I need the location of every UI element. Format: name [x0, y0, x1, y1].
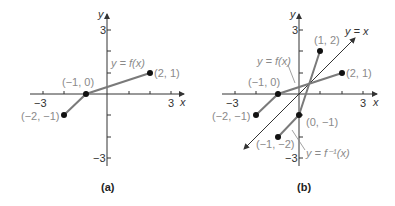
point-label-1-2: (1, 2) [314, 34, 340, 46]
curve-label-f-inverse: y = f⁻¹(x) [305, 147, 350, 159]
y-tick-neg3: −3 [285, 152, 298, 164]
point-label-neg2-neg1: (−2, −1) [212, 110, 251, 122]
point-neg2-neg1 [61, 112, 67, 118]
caption-b: (b) [297, 181, 311, 193]
x-tick-3: 3 [168, 97, 174, 109]
y-axis-label: y [289, 8, 297, 20]
point-label-2-1: (2, 1) [154, 67, 180, 79]
x-axis-label: x [372, 96, 379, 108]
x-tick-3: 3 [360, 97, 366, 109]
x-tick-neg3: −3 [34, 97, 47, 109]
panel-b: y x −3 3 3 −3 y = x y = f(x) y = f⁻¹(x) … [212, 8, 379, 193]
point-2-1 [339, 70, 345, 76]
curve-label-f: y = f(x) [110, 57, 145, 69]
point-neg1-0 [83, 91, 89, 97]
point-neg1-0 [275, 91, 281, 97]
x-axis-label: x [179, 96, 186, 108]
x-tick-neg3: −3 [226, 97, 239, 109]
point-label-neg1-0: (−1, 0) [248, 76, 280, 88]
point-1-2 [317, 48, 323, 54]
point-label-neg1-neg2: (−1, −2) [256, 138, 295, 150]
point-0-neg1 [296, 112, 302, 118]
point-label-0-neg1: (0, −1) [306, 116, 338, 128]
panel-a: y x −3 3 3 −3 y = f(x) (−1, 0) (2, 1) (−… [21, 8, 186, 193]
caption-a: (a) [101, 181, 115, 193]
point-label-neg2-neg1: (−2, −1) [21, 110, 60, 122]
inverse-function-figure: y x −3 3 3 −3 y = f(x) (−1, 0) (2, 1) (−… [0, 0, 395, 206]
f-leader-line [288, 65, 295, 83]
point-neg2-neg1 [253, 112, 259, 118]
y-tick-3: 3 [100, 24, 106, 36]
point-2-1 [147, 70, 153, 76]
y-tick-3: 3 [292, 24, 298, 36]
point-label-2-1: (2, 1) [346, 67, 372, 79]
y-tick-neg3: −3 [93, 152, 106, 164]
identity-label: y = x [344, 25, 369, 37]
y-axis-label: y [97, 8, 105, 20]
curve-label-f: y = f(x) [256, 55, 291, 67]
point-label-neg1-0: (−1, 0) [62, 76, 94, 88]
